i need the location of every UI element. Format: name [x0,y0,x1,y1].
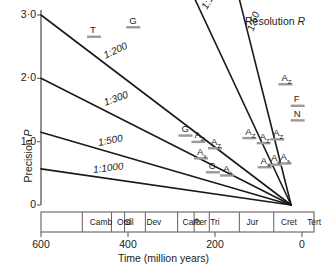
period-jur: Jur [237,217,267,227]
y-tick-0: 3·0 [8,8,36,20]
data-point-a-s-7: As [223,163,232,176]
point-subscript: Z [201,135,205,142]
x-tick-text: 200 [206,238,224,250]
x-tick-text: 0 [299,238,305,250]
x-tick-text: 400 [119,238,137,250]
y-tick-text: 3·0 [21,8,36,20]
data-point-t-0: T [90,24,96,35]
point-subscript: s [203,152,206,159]
precision-symbol: P [22,129,34,136]
x-axis-title: Time (million years) [0,252,327,264]
data-point-a-s-13: As [271,152,280,165]
period-label-text: Dev [146,217,161,227]
x-tick-text: 600 [32,238,50,250]
data-point-a-s-5: As [197,146,206,159]
data-point-a-Z-11: AZ [281,72,291,85]
data-point-g-2: G [181,123,188,134]
point-letter: C [209,160,216,171]
x-tick-0: 600 [25,238,57,250]
data-point-f-15: F [294,93,300,104]
chart-root: 3·02·01·00 6004002000 CambOrdSilDevCarbP… [0,0,327,272]
point-letter: N [294,108,301,119]
data-point-g-1: G [129,15,136,26]
period-tri: Tri [207,217,222,227]
data-point-a-s-14: As [281,151,290,164]
y-tick-text: 2·0 [21,71,36,83]
data-point-c-6: C [209,160,216,171]
data-point-a-Z-10: AZ [273,127,283,140]
period-label-text: Cret [281,217,297,227]
point-subscript: Z [280,133,284,140]
period-label-text: Per [194,217,207,227]
point-subscript: s [287,157,290,164]
period-tert: Tert [300,217,327,227]
point-letter: T [90,24,96,35]
point-subscript: s [230,169,233,176]
period-label-text: Tert [307,217,321,227]
point-letter: F [294,93,300,104]
point-letter: G [129,15,136,26]
period-label-text: Tri [210,217,219,227]
period-label-text: Jur [247,217,259,227]
resolution-symbol: R [298,15,306,27]
data-point-a-Z-9: AZ [260,131,270,144]
point-subscript: Z [217,142,221,149]
resolution-annotation: Resolution R [245,15,305,27]
y-tick-1: 2·0 [8,71,36,83]
period-label-text: Sil [124,217,133,227]
data-point-a-s-12: As [261,155,270,168]
x-tick-2: 200 [199,238,231,250]
data-point-a-Z-8: AZ [245,126,255,139]
data-point-a-Z-4: AZ [211,136,221,149]
point-subscript: Z [288,78,292,85]
point-letter: G [181,123,188,134]
y-axis-title: Precision P [22,106,34,206]
point-subscript: Z [252,131,256,138]
x-tick-1: 400 [112,238,144,250]
period-per: Per [192,217,209,227]
data-point-n-16: N [294,108,301,119]
data-point-a-Z-3: AZ [194,129,204,142]
point-subscript: s [267,161,270,168]
point-subscript: Z [266,137,270,144]
x-tick-3: 0 [286,238,318,250]
period-sil: Sil [123,217,136,227]
axis-lines [37,10,41,205]
period-dev: Dev [143,217,164,227]
